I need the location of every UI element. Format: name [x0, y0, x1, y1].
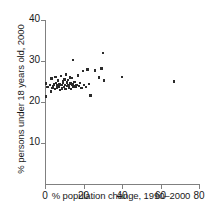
- y-axis-label: % persons under 18 years old, 2000: [14, 6, 28, 192]
- data-point: [50, 77, 52, 79]
- data-point: [77, 74, 79, 76]
- data-point: [66, 81, 68, 83]
- data-point: [103, 79, 105, 81]
- data-point: [50, 90, 52, 92]
- y-tick-mark: [41, 143, 46, 144]
- data-point: [65, 73, 67, 75]
- data-point: [98, 76, 100, 78]
- data-point: [86, 68, 88, 70]
- y-axis-label-container: % persons under 18 years old, 2000: [0, 6, 16, 186]
- data-point: [102, 52, 104, 54]
- data-point: [45, 95, 47, 97]
- x-tick-mark: [122, 184, 123, 189]
- data-point: [100, 67, 102, 69]
- data-point: [64, 88, 66, 90]
- y-tick-mark: [41, 61, 46, 62]
- scatter-plot-figure: % persons under 18 years old, 2000 10203…: [0, 0, 219, 216]
- y-tick-label: 20: [29, 95, 40, 106]
- x-tick-mark: [84, 184, 85, 189]
- x-tick-mark: [161, 184, 162, 189]
- data-point: [74, 86, 76, 88]
- data-point: [94, 69, 96, 71]
- data-point: [72, 59, 74, 61]
- data-point: [45, 82, 47, 84]
- y-tick-label: 40: [29, 13, 40, 24]
- data-point: [70, 88, 72, 90]
- data-point: [173, 80, 175, 82]
- data-point: [54, 76, 56, 78]
- data-point: [82, 70, 84, 72]
- x-axis-label: % population change, 1990–2000: [26, 190, 216, 201]
- data-point: [80, 87, 82, 89]
- y-tick-mark: [41, 20, 46, 21]
- y-tick-label: 10: [29, 136, 40, 147]
- data-point: [79, 82, 81, 84]
- data-point: [49, 84, 51, 86]
- data-point: [89, 94, 91, 96]
- data-point: [57, 79, 59, 81]
- data-point: [121, 76, 123, 78]
- data-point: [88, 83, 90, 85]
- data-point: [71, 77, 73, 79]
- y-tick-mark: [41, 102, 46, 103]
- data-point: [85, 86, 87, 88]
- x-tick-mark: [199, 184, 200, 189]
- data-point: [46, 86, 48, 88]
- x-tick-mark: [45, 184, 46, 189]
- data-point: [67, 79, 69, 81]
- plot-area: 10203040 020406080: [45, 14, 199, 178]
- data-point: [60, 75, 62, 77]
- y-tick-label: 30: [29, 54, 40, 65]
